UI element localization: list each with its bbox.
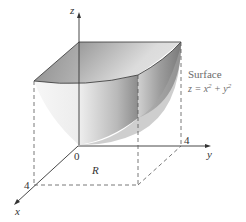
- surface-title: Surface: [188, 69, 222, 80]
- region-label: R: [92, 165, 99, 176]
- surface-equation-prefix: z = x: [188, 83, 208, 94]
- x-axis-label: x: [15, 206, 20, 217]
- surface-equation-exp2: 2: [228, 82, 232, 90]
- surface-equation: z = x2 + y2: [188, 83, 231, 94]
- surface-equation-plus: + y: [212, 83, 228, 94]
- x-tick-4-label: 4: [24, 180, 30, 191]
- x-axis: [17, 146, 78, 202]
- paraboloid-diagram: z y x 0 4 4 R Surface z = x2 + y2: [0, 0, 246, 222]
- y-axis-label: y: [207, 149, 212, 160]
- dashed-region-right-edge: [138, 146, 181, 185]
- z-axis-label: z: [70, 5, 74, 16]
- y-tick-4-label: 4: [184, 135, 190, 146]
- origin-label: 0: [74, 151, 80, 162]
- diagram-graphic: [0, 0, 246, 222]
- z-axis-arrow: [77, 12, 81, 18]
